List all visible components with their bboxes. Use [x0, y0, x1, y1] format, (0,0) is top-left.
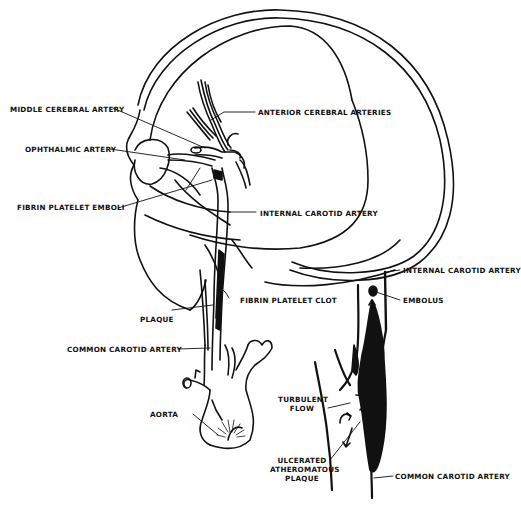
label-middle-cerebral-artery: MIDDLE CEREBRAL ARTERY [10, 105, 124, 114]
label-embolus: EMBOLUS [403, 296, 444, 305]
label-ulcerated-line3: PLAQUE [270, 474, 334, 483]
diagram-canvas: MIDDLE CEREBRAL ARTERY ANTERIOR CEREBRAL… [0, 0, 521, 505]
skull-outline [138, 10, 453, 286]
leader-lines [110, 108, 400, 478]
label-ulcerated-line2: ATHEROMATOUS [270, 465, 334, 474]
label-plaque: PLAQUE [140, 315, 174, 324]
label-turbulent-flow: TURBULENT FLOW [278, 395, 326, 413]
label-ulcerated-line1: ULCERATED [270, 456, 334, 465]
label-fibrin-platelet-emboli: FIBRIN PLATELET EMBOLI [17, 203, 125, 212]
label-turbulent-flow-line1: TURBULENT [278, 395, 326, 404]
label-inset-internal-carotid-artery: INTERNAL CAROTID ARTERY [403, 266, 521, 275]
label-fibrin-platelet-clot: FIBRIN PLATELET CLOT [240, 296, 337, 305]
label-inset-common-carotid-artery: COMMON CAROTID ARTERY [395, 472, 510, 481]
label-aorta: AORTA [150, 410, 178, 419]
label-internal-carotid-artery: INTERNAL CAROTID ARTERY [260, 209, 378, 218]
label-common-carotid-artery: COMMON CAROTID ARTERY [67, 345, 182, 354]
face-outline [127, 110, 252, 310]
label-ulcerated-atheromatous-plaque: ULCERATED ATHEROMATOUS PLAQUE [270, 456, 334, 483]
illustration [0, 0, 521, 505]
aortic-arch [183, 340, 272, 448]
internal-carotid-neck [200, 168, 228, 370]
label-turbulent-flow-line2: FLOW [278, 404, 326, 413]
label-ophthalmic-artery: OPHTHALMIC ARTERY [25, 145, 116, 154]
label-anterior-cerebral-arteries: ANTERIOR CEREBRAL ARTERIES [258, 108, 391, 117]
cerebral-arteries [168, 80, 250, 188]
